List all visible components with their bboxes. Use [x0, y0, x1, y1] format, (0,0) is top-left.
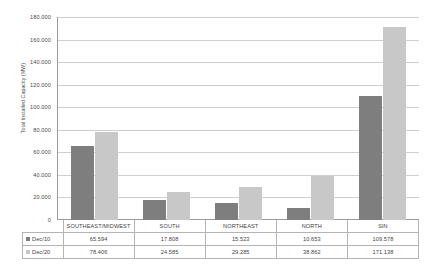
bar[interactable] — [167, 192, 190, 220]
bar-group — [347, 17, 419, 220]
bars-layer — [58, 17, 419, 220]
bar[interactable] — [95, 132, 118, 220]
value-cell: 29.285 — [205, 246, 276, 259]
bar-chart: Total Installed Capacity (MW) 180.000160… — [0, 0, 434, 270]
y-axis-tick-labels: 180.000160.000140.000120.000100.00080.00… — [0, 17, 55, 220]
legend-label: Dec/20 — [32, 249, 50, 255]
value-cell: 10.653 — [276, 233, 347, 246]
bar-group — [275, 17, 347, 220]
y-axis-tick-label: 140.000 — [30, 59, 51, 65]
category-header-cell: SOUTHEAST/MIDWEST — [63, 220, 134, 233]
value-cell: 109.578 — [347, 233, 418, 246]
y-axis-tick-label: 160.000 — [30, 37, 51, 43]
table-header-row: SOUTHEAST/MIDWESTSOUTHNORTHEASTNORTHSIN — [23, 220, 419, 233]
bar[interactable] — [143, 200, 166, 220]
legend-swatch-icon — [26, 237, 30, 241]
bar[interactable] — [311, 176, 334, 220]
bar[interactable] — [287, 208, 310, 220]
value-cell: 24.585 — [134, 246, 205, 259]
value-cell: 78.406 — [63, 246, 134, 259]
table-row: Dec/1065.59417.80815.52310.653109.578 — [23, 233, 419, 246]
value-cell: 65.594 — [63, 233, 134, 246]
y-axis-tick-label: 40.000 — [33, 172, 51, 178]
bar-group — [58, 17, 130, 220]
bar-group — [202, 17, 274, 220]
value-cell: 171.138 — [347, 246, 418, 259]
y-axis-tick-label: 80.000 — [33, 127, 51, 133]
y-axis-tick-label: 180.000 — [30, 14, 51, 20]
legend-swatch-icon — [26, 250, 30, 254]
y-axis-tick-label: 120.000 — [30, 82, 51, 88]
category-header-cell: SIN — [347, 220, 418, 233]
value-cell: 17.808 — [134, 233, 205, 246]
table-row: Dec/2078.40624.58529.28538.862171.138 — [23, 246, 419, 259]
bar[interactable] — [359, 96, 382, 220]
bar[interactable] — [383, 27, 406, 220]
bar-group — [130, 17, 202, 220]
value-cell: 15.523 — [205, 233, 276, 246]
table-corner-cell — [23, 220, 64, 233]
bar[interactable] — [239, 187, 262, 220]
category-header-cell: NORTHEAST — [205, 220, 276, 233]
value-cell: 38.862 — [276, 246, 347, 259]
y-axis-tick-label: 100.000 — [30, 104, 51, 110]
data-table: SOUTHEAST/MIDWESTSOUTHNORTHEASTNORTHSIND… — [22, 220, 419, 259]
y-axis-tick-label: 60.000 — [33, 149, 51, 155]
legend-label: Dec/10 — [32, 236, 50, 242]
y-axis-tick-label: 20.000 — [33, 194, 51, 200]
category-header-cell: SOUTH — [134, 220, 205, 233]
legend-cell[interactable]: Dec/20 — [23, 246, 64, 259]
bar[interactable] — [71, 146, 94, 220]
data-table-body: SOUTHEAST/MIDWESTSOUTHNORTHEASTNORTHSIND… — [23, 220, 419, 259]
category-header-cell: NORTH — [276, 220, 347, 233]
bar[interactable] — [215, 203, 238, 221]
legend-cell[interactable]: Dec/10 — [23, 233, 64, 246]
